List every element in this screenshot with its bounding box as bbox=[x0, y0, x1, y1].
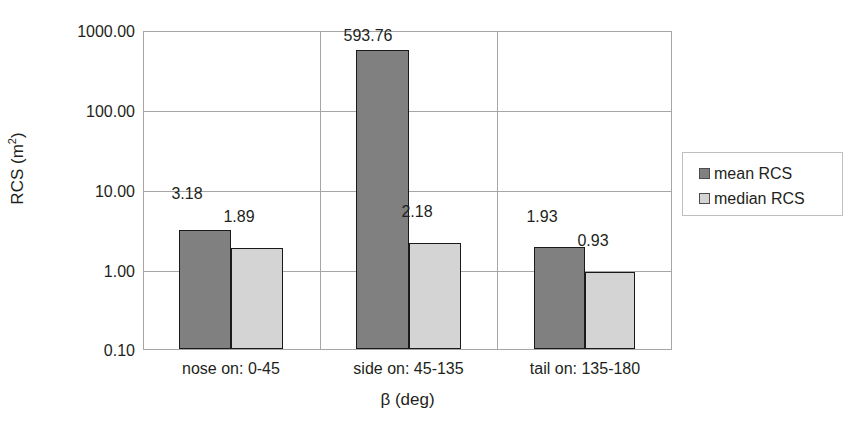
bar-median-tail-on bbox=[585, 272, 635, 349]
x-axis-title: β (deg) bbox=[143, 391, 672, 408]
data-label-mean-tail-on: 1.93 bbox=[503, 209, 581, 225]
data-label-median-tail-on: 0.93 bbox=[554, 233, 632, 249]
rcs-bar-chart: RCS (m2) 1000.00 100.00 10.00 1.00 0.10 bbox=[0, 0, 868, 428]
category-separator-2 bbox=[497, 32, 498, 349]
data-label-median-side-on: 2.18 bbox=[378, 204, 456, 220]
y-tick-label-1000: 1000.00 bbox=[43, 24, 135, 40]
legend-label-mean-rcs: mean RCS bbox=[714, 166, 792, 182]
y-axis-title-exponent: 2 bbox=[6, 138, 18, 144]
legend-item-median-rcs: median RCS bbox=[699, 187, 842, 210]
x-category-label-tail-on: tail on: 135-180 bbox=[497, 361, 673, 377]
y-tick-label-10: 10.00 bbox=[43, 184, 135, 200]
bar-mean-nose-on bbox=[179, 230, 231, 349]
y-axis-tick-labels: 1000.00 100.00 10.00 1.00 0.10 bbox=[43, 0, 135, 428]
legend-swatch-mean-icon bbox=[699, 168, 710, 179]
y-tick-label-100: 100.00 bbox=[43, 104, 135, 120]
legend: mean RCS median RCS bbox=[682, 152, 843, 216]
y-axis-title-close: ) bbox=[8, 132, 27, 138]
data-label-mean-side-on: 593.76 bbox=[320, 28, 416, 44]
data-label-median-nose-on: 1.89 bbox=[200, 209, 278, 225]
legend-swatch-median-icon bbox=[699, 193, 710, 204]
data-label-mean-nose-on: 3.18 bbox=[148, 186, 226, 202]
x-category-label-nose-on: nose on: 0-45 bbox=[143, 361, 319, 377]
y-tick-label-0-1: 0.10 bbox=[43, 343, 135, 359]
y-tick-label-1: 1.00 bbox=[43, 264, 135, 280]
bar-median-side-on bbox=[409, 243, 461, 349]
category-separator-1 bbox=[320, 32, 321, 349]
x-category-label-side-on: side on: 45-135 bbox=[320, 361, 497, 377]
bar-mean-side-on bbox=[356, 50, 409, 349]
bar-mean-tail-on bbox=[534, 247, 585, 349]
y-axis-title: RCS (m2) bbox=[9, 89, 26, 249]
legend-item-mean-rcs: mean RCS bbox=[699, 162, 842, 185]
y-axis-title-base: RCS (m bbox=[8, 144, 27, 204]
bar-median-nose-on bbox=[231, 248, 283, 349]
legend-label-median-rcs: median RCS bbox=[714, 191, 805, 207]
